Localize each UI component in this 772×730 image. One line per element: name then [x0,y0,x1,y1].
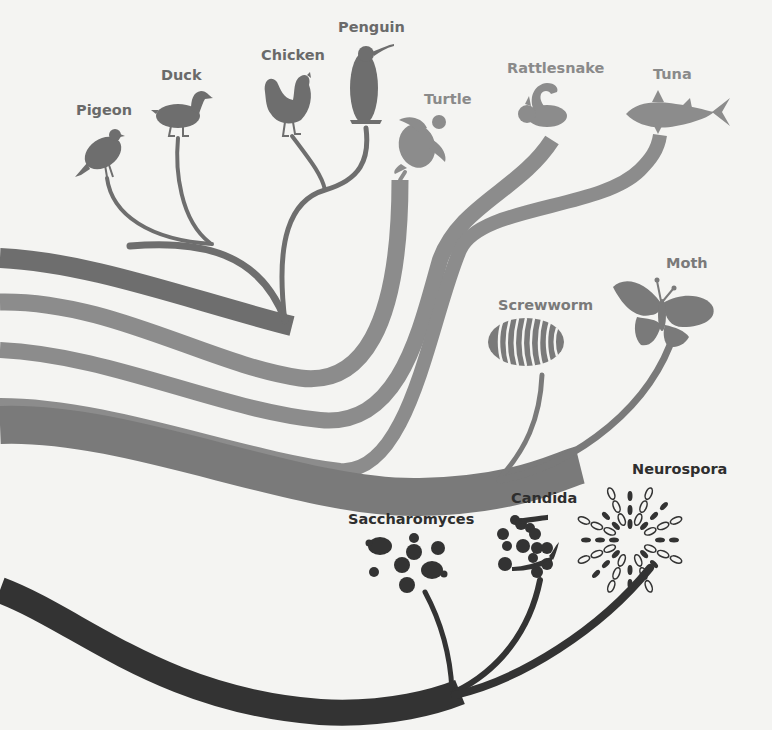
label-rattlesnake: Rattlesnake [507,60,605,76]
rattlesnake-icon [518,83,567,127]
label-turtle: Turtle [424,91,472,107]
duck-icon [151,91,213,136]
saccharomyces-icon [366,533,448,593]
lineage-birds [0,128,367,326]
candida-icon [497,515,559,578]
label-penguin: Penguin [338,19,405,35]
label-duck: Duck [161,67,202,83]
branch-saccharomyces [425,592,452,690]
branch-insects-trunk [0,425,580,497]
label-tuna: Tuna [653,66,692,82]
branch-fungi-trunk [0,590,460,713]
tuna-icon [626,90,730,134]
penguin-icon [350,44,394,124]
chicken-icon [265,72,311,136]
label-screwworm: Screwworm [498,297,593,313]
pigeon-icon [75,129,127,177]
branch-duck [177,138,210,243]
screwworm-icon [488,318,564,366]
branch-candida [455,580,540,692]
lineage-fungi [0,568,650,713]
label-neurospora: Neurospora [632,461,727,477]
lineage-turtle [0,172,405,379]
branch-pigeon [107,178,212,244]
label-pigeon: Pigeon [76,102,132,118]
label-chicken: Chicken [261,47,325,63]
label-saccharomyces: Saccharomyces [348,511,474,527]
neurospora-icon [577,487,682,593]
label-candida: Candida [511,490,577,506]
turtle-icon [394,115,446,174]
branch-turtle [0,180,400,379]
phylogenetic-tree-diagram: Pigeon Duck Chicken Penguin Turtle Rattl… [0,0,772,730]
branch-chicken [292,136,325,190]
branch-penguin [282,128,367,322]
moth-icon [613,278,714,347]
label-moth: Moth [666,255,708,271]
